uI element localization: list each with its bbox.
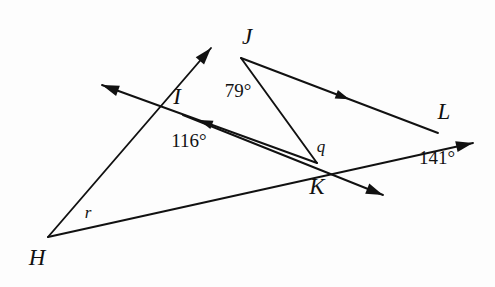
segment-J-to-K bbox=[241, 58, 317, 163]
line-group bbox=[48, 48, 473, 237]
ray-I-to-K-arrow-arrowhead-icon bbox=[365, 184, 383, 195]
ray-H-to-L-arrow bbox=[48, 143, 473, 237]
ray-H-to-L-arrow-arrowhead-icon bbox=[455, 141, 473, 152]
angle-label-79: 79° bbox=[225, 81, 252, 100]
ray-I-to-K-arrow bbox=[183, 115, 383, 195]
ray-K-to-I-arrow-direction-arrow-icon bbox=[199, 120, 214, 129]
angle-label-141: 141° bbox=[419, 148, 455, 167]
point-label-H: H bbox=[29, 246, 46, 269]
point-label-K: K bbox=[309, 175, 324, 198]
ray-K-to-I-arrow-arrowhead-icon bbox=[102, 85, 120, 96]
point-label-I: I bbox=[173, 85, 181, 108]
angle-label-116: 116° bbox=[171, 131, 206, 150]
point-label-J: J bbox=[242, 25, 252, 48]
variable-label-r: r bbox=[85, 204, 92, 221]
geometry-figure: H I J K L 79° 116° 141° q r bbox=[0, 0, 495, 287]
point-label-L: L bbox=[438, 100, 451, 123]
segment-J-to-L-direction-arrow-icon bbox=[335, 90, 350, 99]
variable-label-q: q bbox=[317, 138, 326, 155]
